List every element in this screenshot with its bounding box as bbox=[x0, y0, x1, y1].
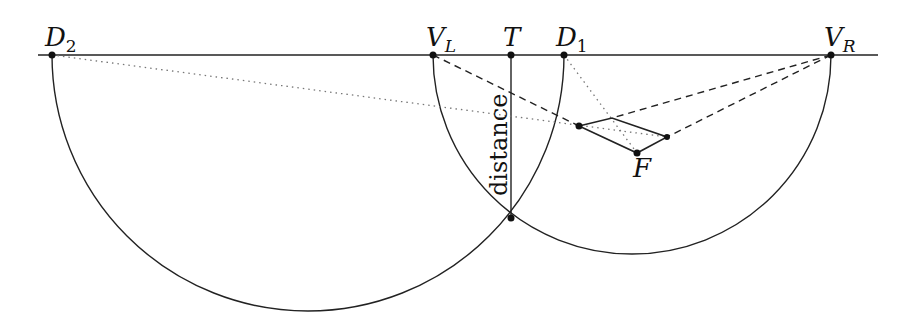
label-vl: VL bbox=[426, 22, 456, 56]
point-vr bbox=[828, 52, 835, 59]
point-intersection bbox=[508, 215, 515, 222]
dashed-line-vr-top bbox=[612, 55, 831, 118]
point-rhombus-left bbox=[576, 123, 583, 130]
point-d1 bbox=[561, 52, 568, 59]
point-rhombus-right bbox=[664, 134, 670, 140]
label-vr: VR bbox=[824, 22, 856, 56]
label-f: F bbox=[632, 153, 652, 183]
point-d2 bbox=[49, 52, 56, 59]
dotted-line-d1 bbox=[564, 55, 637, 153]
point-vl bbox=[430, 52, 437, 59]
dashed-line-vr-right bbox=[667, 55, 831, 137]
distance-label: distance bbox=[485, 94, 513, 196]
rhombus-shape bbox=[579, 118, 667, 153]
label-d1: D1 bbox=[555, 22, 588, 56]
label-d2: D2 bbox=[44, 22, 77, 56]
perspective-diagram: D2 VL T D1 VR F distance bbox=[0, 0, 916, 335]
label-t: T bbox=[503, 22, 522, 52]
point-t bbox=[508, 52, 515, 59]
